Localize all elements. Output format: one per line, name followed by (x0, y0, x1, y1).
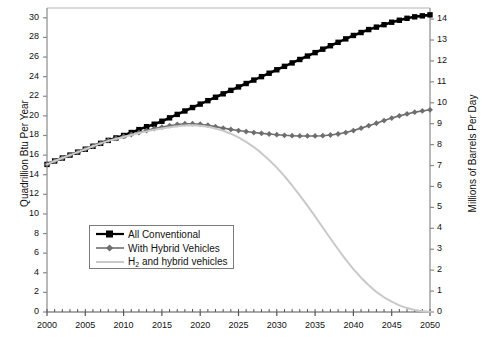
legend-label-all-conventional: All Conventional (128, 229, 200, 240)
y-axis-right-tick-1: 1 (437, 285, 463, 295)
legend-item-all-conventional: All Conventional (95, 227, 200, 241)
chart-legend: All Conventional With Hybrid Vehicles H2… (89, 225, 234, 269)
y-axis-left-tick-22: 22 (13, 90, 39, 100)
legend-swatch-with-hybrid-vehicles (95, 242, 125, 254)
plot-area (0, 0, 496, 346)
y-axis-left-tick-16: 16 (13, 149, 39, 159)
legend-label-h2-suffix: and hybrid vehicles (139, 256, 227, 267)
y-axis-left-tick-30: 30 (13, 12, 39, 22)
legend-label-with-hybrid-vehicles: With Hybrid Vehicles (128, 243, 220, 254)
y-axis-left-tick-6: 6 (13, 247, 39, 257)
y-axis-right-tick-5: 5 (437, 201, 463, 211)
y-axis-left-tick-10: 10 (13, 208, 39, 218)
y-axis-left-tick-26: 26 (13, 51, 39, 61)
y-axis-right-tick-3: 3 (437, 243, 463, 253)
legend-label-h2-and-hybrid-vehicles: H2 and hybrid vehicles (128, 256, 228, 268)
legend-item-h2-and-hybrid-vehicles: H2 and hybrid vehicles (95, 255, 228, 269)
legend-swatch-h2-and-hybrid-vehicles (95, 256, 125, 268)
y-axis-right-tick-4: 4 (437, 222, 463, 232)
y-axis-right-tick-8: 8 (437, 139, 463, 149)
y-axis-left-tick-18: 18 (13, 129, 39, 139)
y-axis-left-tick-24: 24 (13, 71, 39, 81)
y-axis-right-tick-7: 7 (437, 160, 463, 170)
y-axis-right-tick-11: 11 (437, 76, 463, 86)
y-axis-left-tick-0: 0 (13, 306, 39, 316)
x-axis-tick-2040: 2040 (333, 320, 373, 330)
chart-container: Quadrillion Btu Per Year Millions of Bar… (0, 0, 496, 346)
x-axis-tick-2050: 2050 (410, 320, 450, 330)
y-axis-left-tick-8: 8 (13, 228, 39, 238)
x-axis-tick-2015: 2015 (142, 320, 182, 330)
x-axis-tick-2000: 2000 (27, 320, 67, 330)
legend-item-with-hybrid-vehicles: With Hybrid Vehicles (95, 241, 220, 255)
x-axis-tick-2005: 2005 (65, 320, 105, 330)
y-axis-left-tick-4: 4 (13, 267, 39, 277)
legend-swatch-all-conventional (95, 228, 125, 240)
y-axis-right-tick-6: 6 (437, 180, 463, 190)
x-axis-tick-2035: 2035 (295, 320, 335, 330)
y-axis-right-tick-14: 14 (437, 13, 463, 23)
y-axis-right-tick-13: 13 (437, 34, 463, 44)
y-axis-right-tick-0: 0 (437, 306, 463, 316)
x-axis-tick-2045: 2045 (372, 320, 412, 330)
y-axis-left-tick-28: 28 (13, 31, 39, 41)
y-axis-right-tick-9: 9 (437, 118, 463, 128)
x-axis-tick-2010: 2010 (104, 320, 144, 330)
x-axis-tick-2030: 2030 (257, 320, 297, 330)
y-axis-left-tick-2: 2 (13, 286, 39, 296)
x-axis-tick-2020: 2020 (180, 320, 220, 330)
y-axis-left-tick-14: 14 (13, 169, 39, 179)
y-axis-right-tick-10: 10 (437, 97, 463, 107)
y-axis-right-tick-2: 2 (437, 264, 463, 274)
y-axis-left-tick-20: 20 (13, 110, 39, 120)
y-axis-right-tick-12: 12 (437, 55, 463, 65)
x-axis-tick-2025: 2025 (219, 320, 259, 330)
y-axis-left-tick-12: 12 (13, 188, 39, 198)
